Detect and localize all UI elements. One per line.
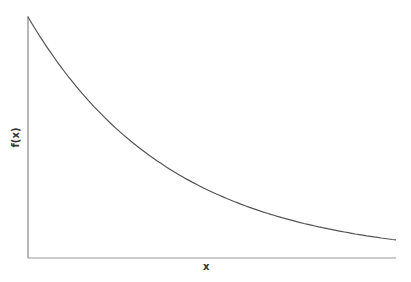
y-axis-label: f(x): [10, 126, 21, 150]
x-axis-label: x: [203, 261, 209, 272]
decay-curve: [28, 17, 396, 240]
chart-plot-area: [0, 0, 411, 282]
